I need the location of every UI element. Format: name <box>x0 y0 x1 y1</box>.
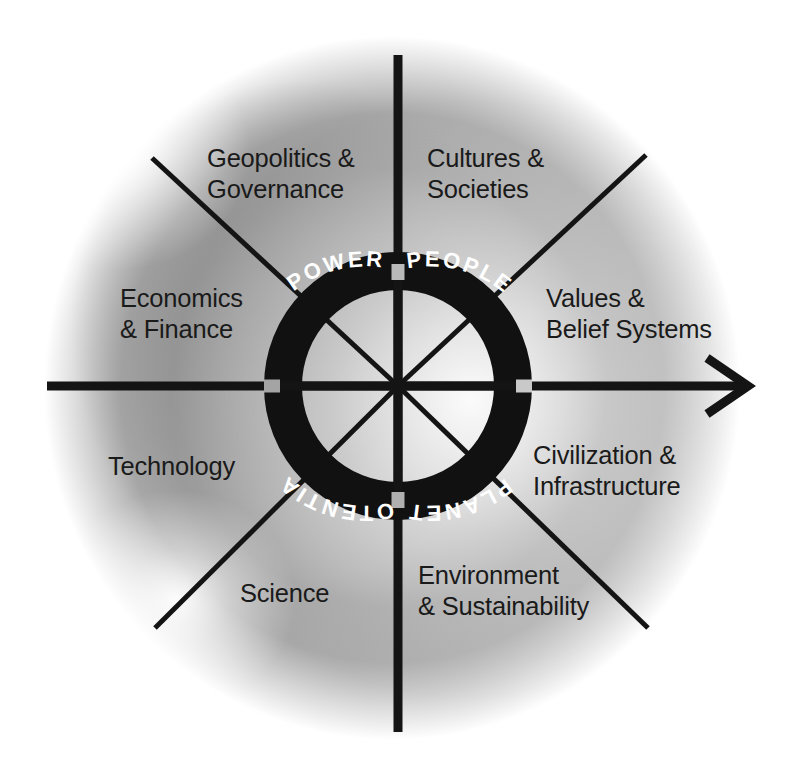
label-technology: Technology <box>108 451 318 482</box>
label-civilization-infrastructure: Civilization & Infrastructure <box>533 440 783 503</box>
ring-gap-bottom <box>392 492 405 508</box>
label-cultures-societies: Cultures & Societies <box>427 143 647 206</box>
label-economics-finance: Economics & Finance <box>120 283 320 346</box>
label-science: Science <box>240 578 410 609</box>
label-values-belief-systems: Values & Belief Systems <box>546 283 796 346</box>
label-geopolitics-governance: Geopolitics & Governance <box>207 143 437 206</box>
ring-gap-left <box>264 380 280 393</box>
ring-gap-right <box>516 380 532 393</box>
diagram-canvas: POWER PEOPLE PLANET POTENTIAL Geopolitic… <box>0 0 799 768</box>
ring-gap-top <box>392 264 405 280</box>
label-environment-sustainability: Environment & Sustainability <box>418 560 678 623</box>
diagram-svg: POWER PEOPLE PLANET POTENTIAL <box>0 0 799 768</box>
